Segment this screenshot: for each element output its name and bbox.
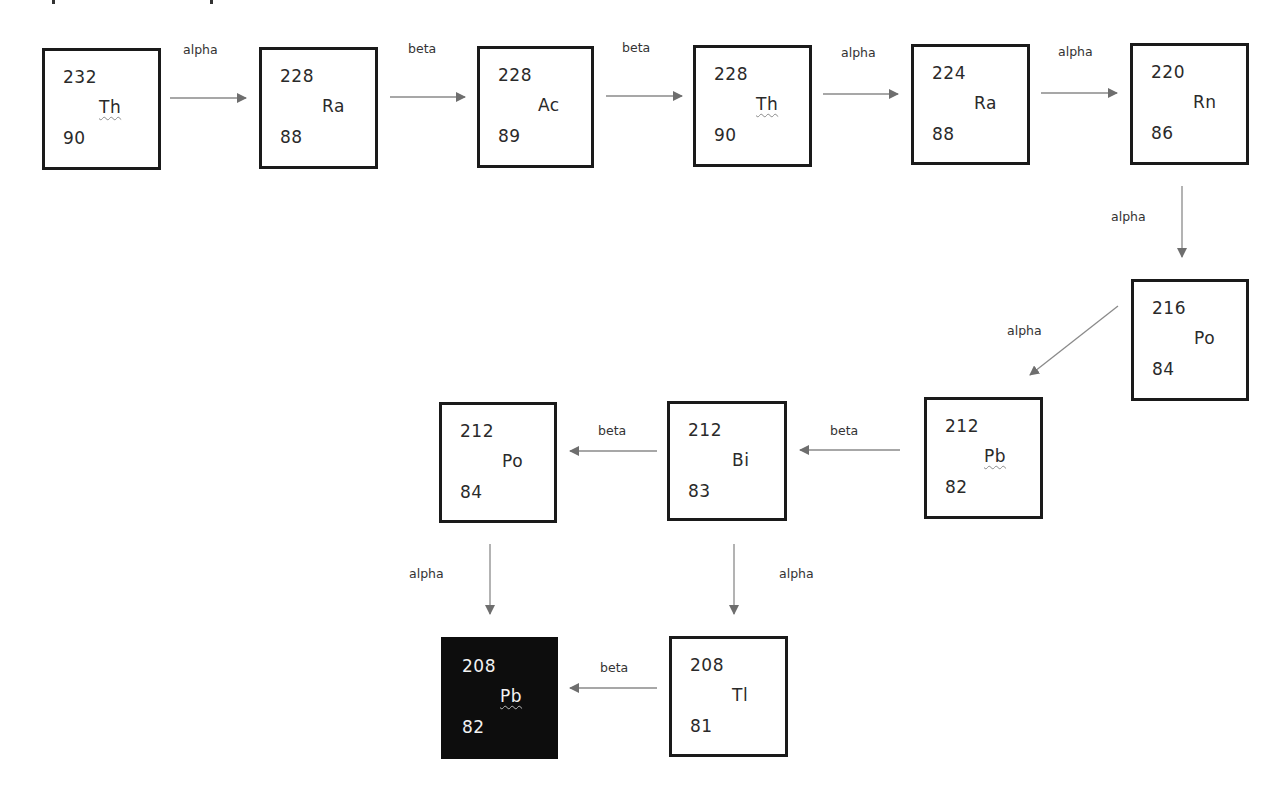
label-po212-pb208: alpha <box>409 568 444 581</box>
label-ra228-ac228: beta <box>408 43 436 56</box>
nuclide-ac228: 228 Ac 89 <box>477 46 594 168</box>
mass-number: 228 <box>714 66 748 83</box>
arrow-po216-pb212 <box>1030 306 1118 375</box>
mass-number: 224 <box>932 65 966 82</box>
atomic-number: 82 <box>945 479 968 496</box>
nuclide-th228: 228 Th 90 <box>693 45 812 167</box>
atomic-number: 86 <box>1151 125 1174 142</box>
label-po216-pb212: alpha <box>1007 325 1042 338</box>
atomic-number: 81 <box>690 718 713 735</box>
element-symbol: Pb <box>500 688 522 705</box>
nuclide-th232: 232 Th 90 <box>42 48 161 170</box>
nuclide-pb208-stable: 208 Pb 82 <box>441 637 558 759</box>
atomic-number: 88 <box>280 129 303 146</box>
element-symbol: Ac <box>538 97 560 114</box>
atomic-number: 89 <box>498 128 521 145</box>
mass-number: 232 <box>63 69 97 86</box>
mass-number: 220 <box>1151 64 1185 81</box>
title-fragment <box>210 0 213 4</box>
element-symbol: Ra <box>322 98 345 115</box>
mass-number: 216 <box>1152 300 1186 317</box>
label-pb212-bi212: beta <box>830 425 858 438</box>
label-tl208-pb208: beta <box>600 662 628 675</box>
atomic-number: 90 <box>63 130 86 147</box>
element-symbol: Bi <box>732 452 749 469</box>
label-bi212-po212: beta <box>598 425 626 438</box>
mass-number: 212 <box>945 418 979 435</box>
element-symbol: Rn <box>1193 94 1217 111</box>
label-th232-ra228: alpha <box>183 44 218 57</box>
atomic-number: 82 <box>462 719 485 736</box>
element-symbol: Po <box>502 453 523 470</box>
mass-number: 228 <box>498 67 532 84</box>
mass-number: 228 <box>280 68 314 85</box>
nuclide-ra224: 224 Ra 88 <box>911 44 1030 165</box>
nuclide-tl208: 208 Tl 81 <box>669 636 788 757</box>
mass-number: 212 <box>460 423 494 440</box>
mass-number: 208 <box>690 657 724 674</box>
nuclide-pb212: 212 Pb 82 <box>924 397 1043 519</box>
element-symbol: Tl <box>732 687 748 704</box>
nuclide-bi212: 212 Bi 83 <box>667 401 787 521</box>
label-bi212-tl208: alpha <box>779 568 814 581</box>
atomic-number: 90 <box>714 127 737 144</box>
mass-number: 208 <box>462 658 496 675</box>
nuclide-rn220: 220 Rn 86 <box>1130 43 1249 165</box>
title-fragment <box>52 0 55 4</box>
nuclide-ra228: 228 Ra 88 <box>259 47 378 169</box>
element-symbol: Th <box>756 96 778 113</box>
atomic-number: 83 <box>688 483 711 500</box>
label-ra224-rn220: alpha <box>1058 46 1093 59</box>
label-rn220-po216: alpha <box>1111 211 1146 224</box>
element-symbol: Ra <box>974 95 997 112</box>
mass-number: 212 <box>688 422 722 439</box>
element-symbol: Po <box>1194 330 1215 347</box>
element-symbol: Pb <box>984 448 1006 465</box>
atomic-number: 84 <box>1152 361 1175 378</box>
nuclide-po216: 216 Po 84 <box>1131 279 1249 401</box>
element-symbol: Th <box>99 99 121 116</box>
label-ac228-th228: beta <box>622 42 650 55</box>
atomic-number: 88 <box>932 126 955 143</box>
nuclide-po212: 212 Po 84 <box>439 402 557 523</box>
label-th228-ra224: alpha <box>841 47 876 60</box>
arrows-layer <box>0 0 1284 785</box>
atomic-number: 84 <box>460 484 483 501</box>
